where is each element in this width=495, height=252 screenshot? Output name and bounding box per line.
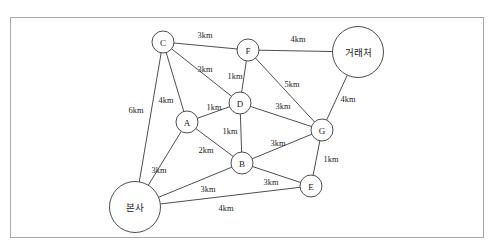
edge-g-e	[313, 141, 320, 175]
node-label-b: B	[239, 159, 245, 169]
edge-label-c-d: 3km	[198, 65, 213, 74]
edge-label-hq-b: 3km	[201, 185, 216, 194]
node-label-a: A	[184, 118, 191, 128]
node-label-client: 거래처	[345, 47, 372, 58]
edge-label-a-hq: 3km	[152, 166, 167, 175]
edge-label-f-client: 4km	[291, 35, 306, 44]
node-label-g: G	[319, 126, 326, 136]
edge-f-g	[255, 58, 314, 122]
edge-label-f-g: 5km	[285, 80, 300, 89]
edge-hq-e	[160, 187, 300, 204]
node-label-e: E	[308, 182, 314, 192]
edge-label-d-g: 3km	[276, 102, 291, 111]
edge-label-hq-e: 4km	[219, 204, 234, 213]
edge-label-d-b: 1km	[223, 127, 238, 136]
edge-label-c-f: 3km	[198, 31, 213, 40]
edge-c-hq	[139, 53, 161, 182]
edge-label-a-d: 1km	[207, 103, 222, 112]
edge-hq-b	[159, 167, 232, 197]
node-label-f: F	[245, 46, 250, 56]
edge-label-client-g: 4km	[341, 95, 356, 104]
network-graph: 3km4km3km1km5km4km4km6km1km3km1km2km3km3…	[0, 0, 495, 252]
edge-label-a-b: 2km	[199, 146, 214, 155]
node-label-hq: 본사	[126, 202, 144, 213]
node-label-c: C	[160, 38, 166, 48]
edge-f-client	[259, 50, 333, 51]
edge-label-g-e: 1km	[324, 155, 339, 164]
edge-label-b-g: 3km	[271, 139, 286, 148]
edge-a-hq	[148, 131, 181, 185]
edge-label-f-d: 1km	[228, 72, 243, 81]
edge-d-b	[240, 114, 241, 152]
edge-label-b-e: 3km	[264, 178, 279, 187]
edge-label-c-hq: 6km	[129, 106, 144, 115]
nodes-group: CF거래처DAGBE본사	[110, 27, 384, 233]
edge-label-c-a: 4km	[159, 96, 174, 105]
edge-c-f	[174, 43, 237, 49]
node-label-d: D	[237, 99, 244, 109]
